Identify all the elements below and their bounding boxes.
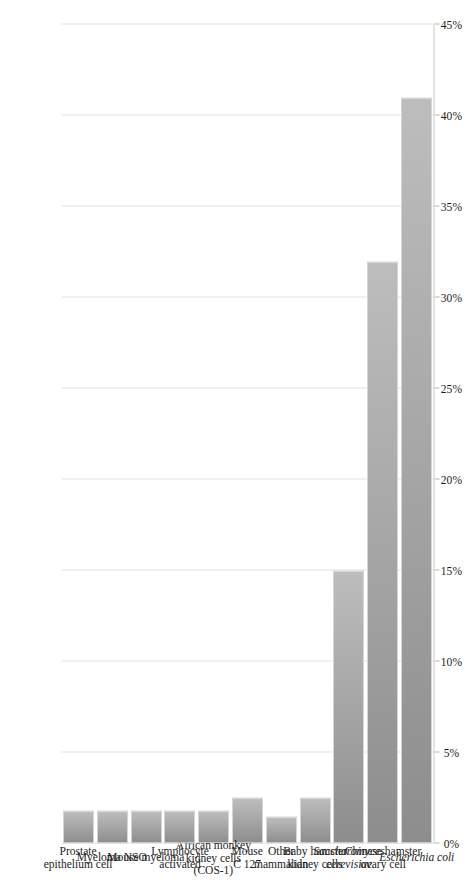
axis-tick <box>434 751 439 752</box>
bar[interactable] <box>367 261 398 843</box>
bar[interactable] <box>401 97 432 843</box>
bar-row[interactable] <box>298 24 332 843</box>
bar-row[interactable] <box>332 24 366 843</box>
axis-tick <box>434 114 439 115</box>
bar-row[interactable] <box>399 24 433 843</box>
bar-row[interactable] <box>365 24 399 843</box>
axis-tick <box>434 387 439 388</box>
value-axis-tick-label: 5% <box>443 746 459 758</box>
axis-tick <box>434 569 439 570</box>
axis-tick <box>434 205 439 206</box>
value-axis-tick-label: 45% <box>440 18 462 30</box>
bar[interactable] <box>130 810 161 843</box>
value-axis-tick-label: 35% <box>440 200 462 212</box>
value-axis-tick-label: 0% <box>443 837 459 849</box>
axis-tick <box>434 842 439 843</box>
value-axis-tick-label: 15% <box>440 564 462 576</box>
bar[interactable] <box>164 810 195 843</box>
value-axis-tick-label: 40% <box>440 109 462 121</box>
bar[interactable] <box>231 798 262 844</box>
bar-row[interactable] <box>162 24 196 843</box>
bar[interactable] <box>62 810 93 843</box>
axis-tick <box>434 660 439 661</box>
bar-row[interactable] <box>129 24 163 843</box>
bar[interactable] <box>333 570 364 843</box>
value-axis-tick-label: 30% <box>440 291 462 303</box>
value-axis-tick-label: 20% <box>440 473 462 485</box>
category-axis-label: Prostateepithelium cell <box>18 844 138 869</box>
bar-row[interactable] <box>264 24 298 843</box>
bar-row[interactable] <box>61 24 95 843</box>
bar-row[interactable] <box>196 24 230 843</box>
bar-row[interactable] <box>95 24 129 843</box>
value-axis-tick-label: 10% <box>440 655 462 667</box>
axis-tick <box>434 23 439 24</box>
bar[interactable] <box>299 798 330 844</box>
value-axis-tick-label: 25% <box>440 382 462 394</box>
axis-tick <box>434 296 439 297</box>
bar[interactable] <box>96 810 127 843</box>
plot-area: 0%5%10%15%20%25%30%35%40%45%Escherichia … <box>61 24 433 843</box>
bar-row[interactable] <box>230 24 264 843</box>
axis-tick <box>434 478 439 479</box>
